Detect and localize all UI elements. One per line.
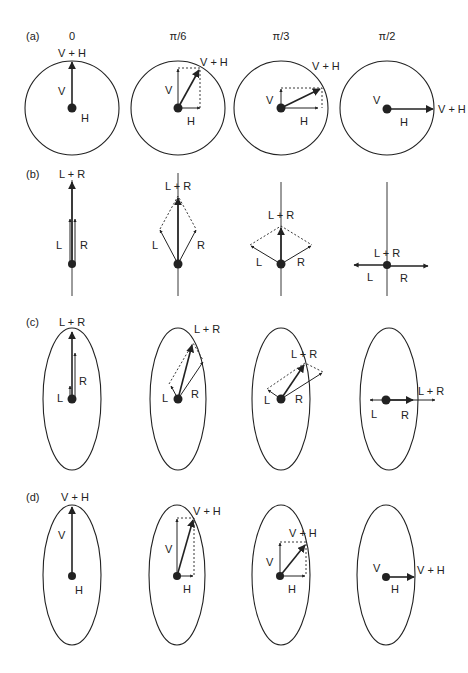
- panel-d-pi6: V + H V H: [149, 505, 221, 645]
- r-label: R: [80, 239, 88, 251]
- r-label: R: [79, 375, 87, 387]
- column-header-pi6: π/6: [170, 30, 187, 42]
- h-label: H: [391, 583, 399, 595]
- origin-dot: [174, 260, 183, 269]
- sum-vector-arrow: [177, 520, 193, 576]
- origin-dot: [173, 572, 181, 580]
- l-label: L: [256, 256, 262, 268]
- row-c: (c) L + R L R L + R L R: [26, 316, 444, 470]
- v-label: V: [58, 85, 66, 97]
- v-label: V: [373, 562, 381, 574]
- sum-label: L + R: [374, 247, 400, 259]
- sum-vector-arrow: [178, 70, 199, 108]
- l-vector-arrow: [160, 230, 178, 264]
- sum-vector-arrow: [281, 89, 320, 108]
- sum-label: L + R: [291, 348, 317, 360]
- panel-c-pi2: L + R L R: [360, 328, 444, 470]
- column-headers: 0 π/6 π/3 π/2: [69, 30, 395, 42]
- sum-label: V + H: [58, 47, 86, 59]
- v-label: V: [266, 94, 274, 106]
- row-a: (a) V + H V H V + H V H: [25, 30, 466, 155]
- sum-label: L + R: [59, 168, 85, 180]
- l-label: L: [264, 394, 270, 406]
- sum-vector-arrow: [178, 345, 192, 399]
- sum-label: V + H: [438, 103, 466, 115]
- origin-dot: [382, 573, 390, 581]
- polarization-diagram: 0 π/6 π/3 π/2 (a) V + H V H V + H V H: [0, 0, 468, 673]
- origin-dot: [276, 572, 284, 580]
- origin-dot: [277, 395, 286, 404]
- h-label: H: [187, 115, 195, 127]
- column-header-pi2: π/2: [379, 30, 396, 42]
- column-header-pi3: π/3: [273, 30, 290, 42]
- h-label: H: [288, 583, 296, 595]
- origin-dot: [174, 104, 183, 113]
- h-label: H: [183, 583, 191, 595]
- panel-c-pi6: L + R L R: [150, 323, 220, 470]
- panel-b-0: L + R L R: [56, 168, 88, 296]
- r-label: R: [191, 388, 199, 400]
- l-label: L: [162, 392, 168, 404]
- row-label-d: (d): [26, 491, 39, 503]
- origin-dot: [68, 260, 76, 268]
- row-b: (b) L + R L R L + R L R: [26, 168, 428, 296]
- l-label: L: [56, 239, 62, 251]
- v-label: V: [373, 94, 381, 106]
- panel-a-0: V + H V H: [25, 47, 119, 155]
- h-label: H: [81, 112, 89, 124]
- origin-dot: [277, 260, 286, 269]
- sum-label: V + H: [61, 491, 89, 503]
- v-label: V: [266, 556, 274, 568]
- l-label: L: [367, 271, 373, 283]
- sum-label: L + R: [418, 385, 444, 397]
- panel-d-pi2: V + H V H: [357, 505, 445, 645]
- origin-dot: [68, 572, 76, 580]
- panel-d-0: V + H V H: [43, 491, 101, 645]
- panel-b-pi3: L + R L R: [250, 182, 312, 296]
- sum-label: V + H: [193, 505, 221, 517]
- row-label-b: (b): [26, 168, 39, 180]
- r-label: R: [297, 256, 305, 268]
- sum-label: V + H: [312, 60, 340, 72]
- sum-label: V + H: [417, 564, 445, 576]
- row-label-a: (a): [26, 30, 39, 42]
- r-label: R: [197, 239, 205, 251]
- origin-dot: [383, 261, 391, 269]
- panel-d-pi3: V + H V H: [252, 505, 317, 645]
- panel-b-pi2: L + R L R: [354, 182, 428, 296]
- row-d: (d) V + H V H V + H V H: [26, 491, 445, 645]
- h-label: H: [300, 115, 308, 127]
- origin-dot: [383, 105, 392, 114]
- v-label: V: [165, 84, 173, 96]
- v-label: V: [58, 529, 66, 541]
- sum-label: L + R: [165, 180, 191, 192]
- panel-a-pi2: V + H V H: [340, 61, 466, 155]
- origin-dot: [68, 104, 77, 113]
- origin-dot: [277, 104, 286, 113]
- l-label: L: [371, 408, 377, 420]
- r-label: R: [295, 393, 303, 405]
- sum-label: L + R: [268, 209, 294, 221]
- column-header-0: 0: [69, 30, 75, 42]
- r-label: R: [401, 409, 409, 421]
- panel-c-pi3: L + R L R: [252, 328, 323, 470]
- h-label: H: [400, 116, 408, 128]
- sum-label: L + R: [194, 323, 220, 335]
- projection-dashes: [267, 363, 323, 389]
- origin-dot: [174, 395, 183, 404]
- v-label: V: [165, 543, 173, 555]
- r-vector-arrow: [281, 246, 311, 264]
- sum-label: L + R: [59, 316, 85, 328]
- row-label-c: (c): [26, 316, 39, 328]
- panel-a-pi6: V + H V H: [131, 56, 228, 155]
- panel-c-0: L + R L R: [43, 316, 101, 470]
- r-vector-arrow: [178, 230, 196, 264]
- l-label: L: [57, 392, 63, 404]
- r-label: R: [400, 272, 408, 284]
- sum-label: V + H: [200, 56, 228, 68]
- l-label: L: [152, 239, 158, 251]
- panel-a-pi3: V + H V H: [234, 60, 340, 155]
- sum-label: V + H: [289, 527, 317, 539]
- h-label: H: [75, 584, 83, 596]
- origin-dot: [382, 396, 391, 405]
